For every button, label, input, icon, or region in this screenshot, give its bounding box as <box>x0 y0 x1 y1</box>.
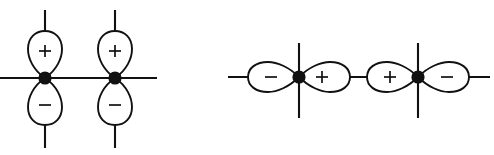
atom-1-lobe-bottom <box>28 78 62 125</box>
p-orbital-overlap-diagram <box>0 0 494 155</box>
atom-3 <box>248 43 350 118</box>
atom-2-lobe-bottom <box>98 78 132 125</box>
diagram-canvas <box>0 0 494 155</box>
atom-4 <box>367 43 469 118</box>
group-side-by-side-overlap <box>0 10 157 148</box>
atom-2-nucleus <box>108 71 121 84</box>
atom-4-nucleus <box>411 70 424 83</box>
atom-3-nucleus <box>292 70 305 83</box>
atom-1-nucleus <box>38 71 51 84</box>
group-end-to-end-overlap <box>228 43 490 118</box>
